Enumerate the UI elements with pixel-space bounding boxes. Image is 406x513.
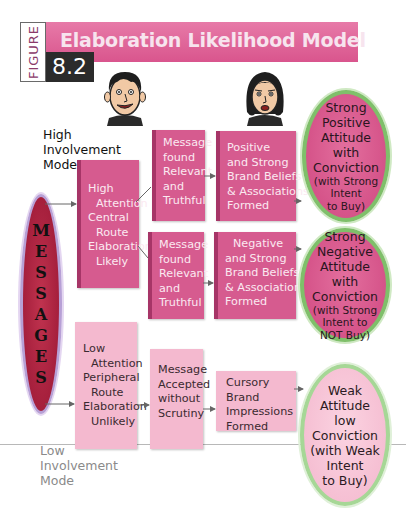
connector-arrows: [0, 0, 406, 513]
